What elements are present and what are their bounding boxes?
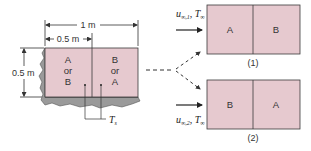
left-cell-line3: B — [65, 76, 71, 87]
left-cell-line1: A — [65, 54, 72, 65]
height-label: 0.5 m — [12, 68, 35, 78]
surface-temp-label: Ts — [109, 114, 118, 126]
right-cell-line1: B — [112, 54, 118, 65]
config2-flow-label: u∞,2, T∞ — [176, 114, 205, 126]
branch-arrows — [146, 52, 200, 89]
dimension-height: 0.5 m — [12, 48, 44, 97]
half-width-label: 0.5 m — [57, 34, 80, 44]
plate-block: A or B B or A — [39, 48, 140, 108]
config1-right-cell: B — [273, 24, 279, 35]
config1-left-cell: A — [227, 24, 234, 35]
plate-surface — [45, 48, 138, 97]
diagram-canvas: 1 m 0.5 m 0.5 m A or B B or A Ts — [0, 0, 311, 151]
config1-flow-label: u∞,1, T∞ — [176, 8, 205, 20]
configuration-1: u∞,1, T∞ A B (1) — [176, 5, 300, 68]
left-cell-line2: or — [64, 65, 72, 76]
right-cell-line2: or — [111, 65, 119, 76]
right-cell-line3: A — [112, 76, 119, 87]
config2-right-cell: A — [273, 99, 280, 110]
configuration-2: u∞,2, T∞ B A (2) — [176, 80, 300, 143]
dimension-half-width: 0.5 m — [46, 33, 92, 48]
config2-label: (2) — [248, 133, 259, 143]
config1-label: (1) — [248, 58, 259, 68]
config2-left-cell: B — [227, 99, 233, 110]
total-width-label: 1 m — [80, 20, 95, 30]
